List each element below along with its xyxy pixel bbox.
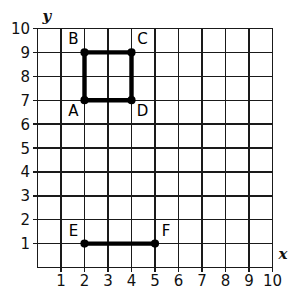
y-tick-label-2: 2: [20, 211, 30, 229]
y-tick-label-3: 3: [20, 187, 30, 205]
vertex-dot-D: [127, 96, 135, 104]
y-tick-label-5: 5: [20, 140, 30, 158]
point-label-F: F: [162, 222, 171, 240]
point-label-E: E: [69, 222, 78, 240]
vertex-dot-A: [80, 96, 88, 104]
y-axis-label: y: [42, 7, 53, 25]
x-tick-label-10: 10: [263, 272, 282, 290]
x-tick-label-9: 9: [244, 272, 254, 290]
y-tick-label-1: 1: [20, 235, 30, 253]
y-tick-label-8: 8: [20, 68, 30, 86]
vertex-dot-B: [80, 48, 88, 56]
y-tick-label-4: 4: [20, 163, 30, 181]
x-tick-label-2: 2: [80, 272, 90, 290]
x-tick-label-7: 7: [197, 272, 207, 290]
x-tick-label-4: 4: [127, 272, 137, 290]
point-label-D: D: [137, 102, 149, 120]
vertex-dot-F: [151, 240, 159, 248]
y-tick-label-10: 10: [11, 20, 30, 38]
x-tick-label-5: 5: [150, 272, 160, 290]
point-label-B: B: [68, 30, 78, 48]
grid-svg: 1234567891012345678910yxABCDEF: [0, 0, 288, 296]
x-tick-label-1: 1: [56, 272, 66, 290]
y-tick-label-9: 9: [20, 44, 30, 62]
x-axis-label: x: [278, 245, 289, 263]
y-tick-label-6: 6: [20, 116, 30, 134]
x-tick-label-3: 3: [103, 272, 113, 290]
coordinate-grid-figure: 1234567891012345678910yxABCDEF: [0, 0, 288, 296]
vertex-dot-E: [80, 240, 88, 248]
vertex-dot-C: [127, 48, 135, 56]
y-tick-label-7: 7: [20, 92, 30, 110]
x-tick-label-8: 8: [221, 272, 231, 290]
point-label-C: C: [137, 30, 147, 48]
point-label-A: A: [68, 102, 79, 120]
x-tick-label-6: 6: [174, 272, 184, 290]
